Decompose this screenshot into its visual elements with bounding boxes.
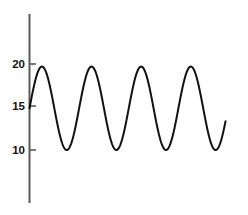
chart-background: [0, 0, 248, 215]
sine-wave-chart: 20 15 10: [0, 0, 248, 215]
y-tick-label-20: 20: [12, 58, 25, 70]
y-tick-label-10: 10: [12, 144, 25, 156]
y-tick-label-15: 15: [12, 100, 25, 112]
chart-figure: 20 15 10: [0, 0, 248, 215]
